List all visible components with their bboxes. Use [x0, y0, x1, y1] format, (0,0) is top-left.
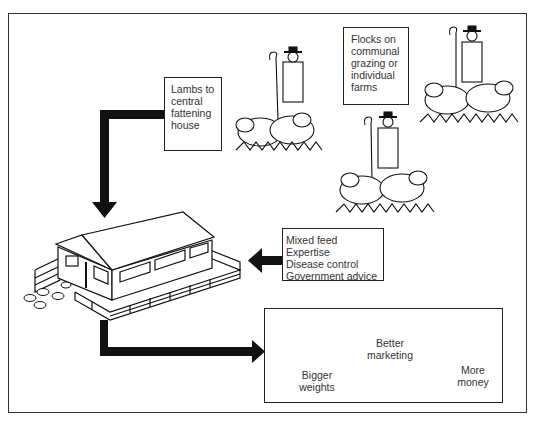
more-money-line-2: money — [450, 376, 496, 388]
better-marketing-label: Better marketing — [360, 337, 420, 361]
arrow-inputs-to-house — [248, 248, 282, 273]
bigger-weights-line-1: Bigger — [292, 369, 342, 381]
inputs-line-4: Government advice — [286, 270, 383, 282]
shepherd-group-3 — [420, 26, 518, 122]
better-marketing-line-2: marketing — [360, 349, 420, 361]
arrow-lambs-to-house — [92, 110, 164, 218]
flocks-line-5: farms — [351, 81, 408, 93]
more-money-label: More money — [450, 364, 496, 388]
shepherd-group-1 — [236, 47, 322, 150]
inputs-line-3: Disease control — [286, 258, 383, 270]
more-money-line-1: More — [450, 364, 496, 376]
shepherd-group-2 — [336, 112, 434, 212]
inputs-box: Mixed feed Expertise Disease control Gov… — [282, 228, 384, 281]
lambs-line-4: house — [171, 119, 221, 131]
flocks-line-2: communal — [351, 45, 408, 57]
inputs-line-1: Mixed feed — [286, 234, 383, 246]
lambs-box: Lambs to central fattening house — [164, 77, 222, 151]
inputs-line-2: Expertise — [286, 246, 383, 258]
bigger-weights-label: Bigger weights — [292, 369, 342, 393]
lambs-line-1: Lambs to — [171, 83, 221, 95]
lambs-line-3: fattening — [171, 107, 221, 119]
arrow-house-to-outputs — [100, 320, 265, 363]
flocks-line-1: Flocks on — [351, 33, 408, 45]
fattening-house-illustration — [35, 212, 240, 320]
flocks-box: Flocks on communal grazing or individual… — [343, 27, 409, 105]
flocks-line-3: grazing or — [351, 57, 408, 69]
flocks-line-4: individual — [351, 69, 408, 81]
better-marketing-line-1: Better — [360, 337, 420, 349]
bigger-weights-line-2: weights — [292, 381, 342, 393]
lambs-line-2: central — [171, 95, 221, 107]
